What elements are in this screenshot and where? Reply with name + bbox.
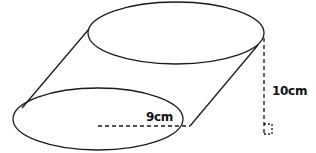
- oblique-cylinder-figure: [0, 0, 316, 153]
- left-slant-edge: [22, 29, 89, 108]
- top-base-ellipse: [88, 2, 264, 64]
- radius-label: 9cm: [146, 111, 173, 123]
- height-label: 10cm: [272, 85, 307, 97]
- right-angle-marker: [264, 124, 272, 134]
- right-slant-edge: [190, 45, 258, 126]
